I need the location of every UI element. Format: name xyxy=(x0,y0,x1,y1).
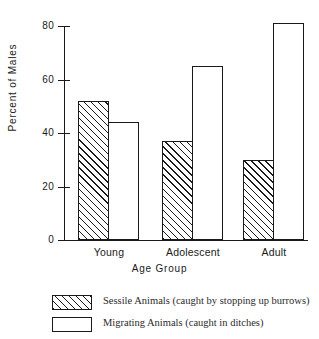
bar-adolescent-sessile xyxy=(162,141,193,240)
bar-young-sessile xyxy=(78,101,109,240)
x-axis-title: Age Group xyxy=(0,263,319,274)
y-tick-label-40: 40 xyxy=(42,126,54,139)
legend-label-migrating: Migrating Animals (caught in ditches) xyxy=(103,316,263,330)
chart-legend: Sessile Animals (caught by stopping up b… xyxy=(0,292,319,336)
hatched-swatch-icon xyxy=(52,295,92,310)
plot-area xyxy=(64,26,308,240)
x-category-label-young: Young xyxy=(78,246,140,259)
bar-adolescent-migrating xyxy=(192,66,223,240)
y-tick-label-60: 60 xyxy=(42,73,54,86)
x-axis-line xyxy=(64,240,308,241)
legend-item-migrating: Migrating Animals (caught in ditches) xyxy=(0,314,319,336)
legend-item-sessile: Sessile Animals (caught by stopping up b… xyxy=(0,292,319,314)
y-tick-label-20: 20 xyxy=(42,180,54,193)
x-category-label-adolescent: Adolescent xyxy=(147,246,239,259)
y-tick-label-0: 0 xyxy=(48,233,54,246)
open-swatch-icon xyxy=(52,317,92,332)
bar-adult-migrating xyxy=(273,23,304,240)
y-tick-0: 0 xyxy=(58,240,64,241)
bar-chart-figure: 80 60 40 20 0 Young Adolescent Adult Age… xyxy=(0,0,319,339)
y-tick-label-80: 80 xyxy=(42,19,54,32)
x-category-label-adult: Adult xyxy=(243,246,305,259)
bar-adult-sessile xyxy=(243,160,274,240)
legend-label-sessile: Sessile Animals (caught by stopping up b… xyxy=(103,294,309,308)
y-axis-title: Percent of Males xyxy=(7,28,18,148)
bar-young-migrating xyxy=(108,122,139,240)
